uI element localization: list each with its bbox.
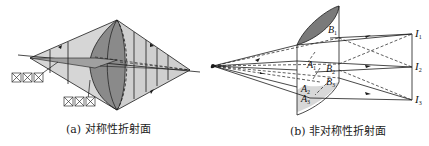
tangential-marker-boxes	[64, 97, 95, 106]
label-I1: I1	[414, 27, 422, 40]
label-I3: I3	[414, 93, 422, 106]
panel-symmetric-refraction: (a) 对称性折射面	[0, 0, 215, 146]
sagittal-marker-boxes	[12, 73, 43, 82]
panel-asymmetric-refraction: B1 A1 B2 B3 A2 A3 I1 I2 I3 (b) 非对称性折射面	[200, 0, 429, 146]
caption-symmetric: (a) 对称性折射面	[66, 120, 151, 136]
caption-asymmetric: (b) 非对称性折射面	[290, 122, 386, 138]
label-I2: I2	[414, 60, 422, 73]
